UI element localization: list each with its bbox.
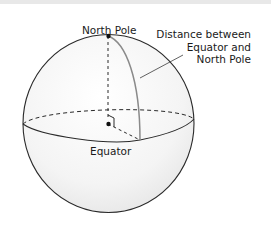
- sphere-diagram: North Pole Equator Distance between Equa…: [0, 0, 271, 233]
- distance-label-line-3: North Pole: [156, 53, 251, 66]
- north-pole-label: North Pole: [82, 24, 136, 37]
- distance-label-line-2: Equator and: [156, 41, 251, 54]
- equator-label: Equator: [90, 145, 131, 158]
- center-point: [106, 122, 110, 126]
- distance-label: Distance between Equator and North Pole: [156, 28, 251, 66]
- distance-label-line-1: Distance between: [156, 28, 251, 41]
- scan-artifact: [0, 0, 271, 4]
